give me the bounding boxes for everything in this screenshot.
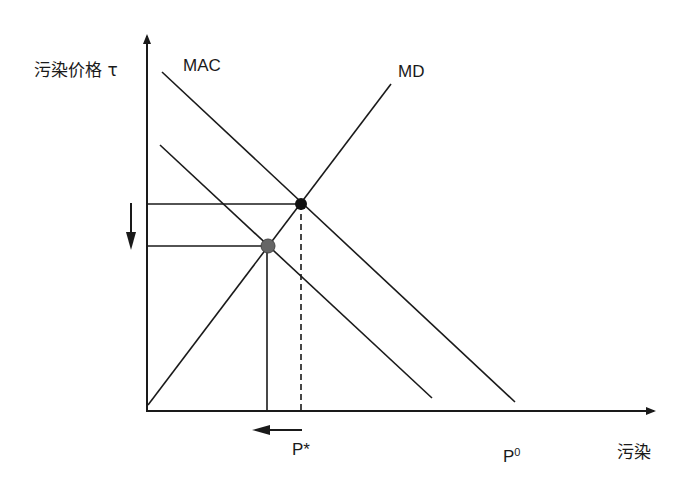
x-axis-label: 污染 — [617, 444, 651, 461]
mac-label: MAC — [183, 57, 221, 74]
arrow-left-head-icon — [252, 425, 270, 435]
md-label: MD — [398, 63, 424, 80]
mac-shifted-curve — [160, 145, 432, 398]
new-equilibrium-point — [261, 239, 275, 253]
p-zero-superscript: 0 — [514, 446, 520, 458]
p-zero-base: P — [503, 447, 514, 466]
p-zero-label: P0 — [503, 447, 520, 465]
mac-curve — [162, 72, 515, 402]
arrow-down-head-icon — [126, 232, 136, 250]
y-axis-label: 污染价格 τ — [34, 62, 118, 79]
equilibrium-point — [295, 198, 307, 210]
p-star-label: P* — [292, 441, 310, 458]
